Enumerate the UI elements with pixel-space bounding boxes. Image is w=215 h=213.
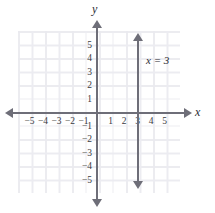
x-axis-arrow-left-icon <box>5 108 13 118</box>
coordinate-plane-figure: x y −5−4−3−2−112345 54321−1−2−3−4−5 x = … <box>0 0 215 213</box>
x-axis-arrow-right-icon <box>184 108 192 118</box>
x-tick-label: −2 <box>65 117 75 127</box>
x-tick-label: −4 <box>38 117 48 127</box>
x-tick-label: 1 <box>108 117 113 127</box>
plot-line-arrow-top-icon <box>133 33 143 41</box>
equation-annotation: x = 3 <box>146 54 169 66</box>
y-axis-arrow-bottom-icon <box>92 199 102 207</box>
x-tick-label: −5 <box>24 117 34 127</box>
y-axis-arrow-top-icon <box>92 20 102 28</box>
plot-line-arrow-bottom-icon <box>133 181 143 189</box>
plot-line-x-equals-3 <box>137 40 139 183</box>
x-axis-label: x <box>195 105 200 120</box>
x-tick-label: −3 <box>51 117 61 127</box>
y-axis-label: y <box>92 2 97 17</box>
x-tick-label: 5 <box>162 117 167 127</box>
x-axis-line <box>12 112 187 114</box>
x-tick-label: 4 <box>149 117 154 127</box>
x-tick-label: 2 <box>122 117 127 127</box>
y-axis-line <box>96 27 98 203</box>
